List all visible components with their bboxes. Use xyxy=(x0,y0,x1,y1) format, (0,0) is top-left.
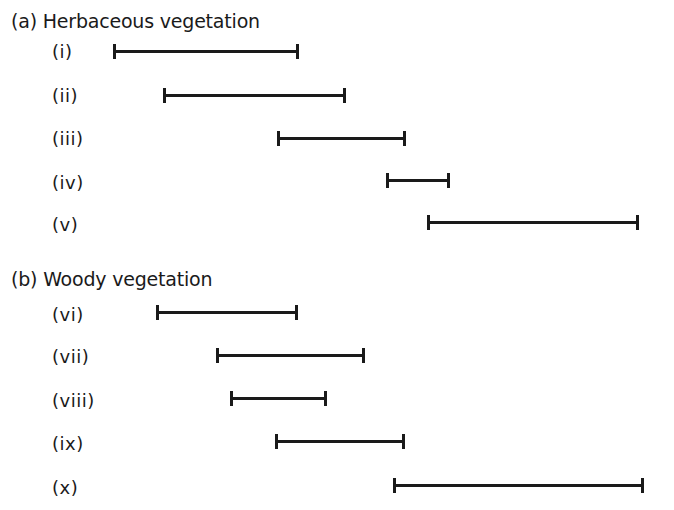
range-bar xyxy=(231,397,326,400)
item-label-vii: (vii) xyxy=(52,346,89,368)
range-bar xyxy=(387,179,449,182)
section-header-herbaceous: (a) Herbaceous vegetation xyxy=(11,10,260,32)
item-label-v: (v) xyxy=(52,214,78,236)
range-bar xyxy=(164,94,345,97)
item-label-iii: (iii) xyxy=(52,128,84,150)
item-label-x: (x) xyxy=(52,477,78,499)
item-label-iv: (iv) xyxy=(52,172,84,194)
range-bar xyxy=(114,50,298,53)
range-bar xyxy=(278,137,405,140)
item-label-i: (i) xyxy=(52,41,73,63)
item-label-viii: (viii) xyxy=(52,390,95,412)
range-bar xyxy=(157,311,297,314)
item-label-ii: (ii) xyxy=(52,85,78,107)
item-label-vi: (vi) xyxy=(52,304,84,326)
range-bar xyxy=(217,354,364,357)
range-bar xyxy=(428,221,638,224)
section-header-woody: (b) Woody vegetation xyxy=(11,268,212,290)
range-bar xyxy=(394,484,643,487)
item-label-ix: (ix) xyxy=(52,433,84,455)
range-bar xyxy=(276,440,404,443)
